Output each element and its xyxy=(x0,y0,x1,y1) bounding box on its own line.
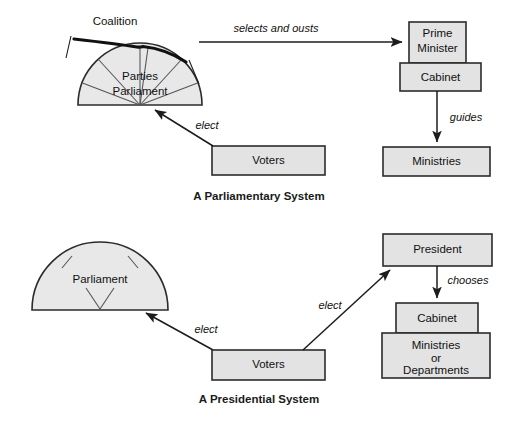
government-systems-diagram: Coalition Parties Parliament selects and… xyxy=(0,0,521,424)
box-label-cabinet-parliamentary: Cabinet xyxy=(421,71,461,83)
edge-label-selects-and-ousts: selects and ousts xyxy=(234,22,319,34)
box-label-president: President xyxy=(413,243,462,255)
box-president: President xyxy=(383,234,492,266)
edge-elect-president: elect xyxy=(303,270,390,350)
parliament-label-line1: Parties xyxy=(122,70,158,82)
edge-label-elect-parliament: elect xyxy=(194,323,218,335)
edge-elect-parliament-presidential: elect xyxy=(146,313,219,350)
edge-selects-and-ousts: selects and ousts xyxy=(199,22,402,42)
box-cabinet-parliamentary: Cabinet xyxy=(400,63,481,91)
coalition-label: Coalition xyxy=(93,15,138,27)
parliament-label-presidential: Parliament xyxy=(73,273,129,285)
parliament-label-line2: Parliament xyxy=(113,85,169,97)
box-label-prime-minister-line1: Prime xyxy=(422,27,452,39)
edge-chooses: chooses xyxy=(437,266,489,298)
diagram-canvas: Coalition Parties Parliament selects and… xyxy=(0,0,521,424)
box-voters-presidential: Voters xyxy=(212,350,325,380)
edge-label-elect-parliamentary: elect xyxy=(195,119,219,131)
box-voters-parliamentary: Voters xyxy=(212,146,325,175)
edge-label-guides: guides xyxy=(450,111,483,123)
box-label-prime-minister-line2: Minister xyxy=(417,42,457,54)
box-label-cabinet-presidential: Cabinet xyxy=(417,312,457,324)
caption-parliamentary-system: A Parliamentary System xyxy=(193,190,324,202)
edge-label-elect-president: elect xyxy=(318,299,342,311)
box-label-ministries-line1: Ministries xyxy=(412,339,461,351)
box-ministries-departments: Ministries or Departments xyxy=(382,333,490,378)
edge-elect-parliamentary: elect xyxy=(155,110,220,146)
box-label-voters-parliamentary: Voters xyxy=(252,154,285,166)
box-ministries-parliamentary: Ministries xyxy=(383,147,490,176)
box-label-ministries-line2: or xyxy=(431,352,441,364)
box-cabinet-presidential: Cabinet xyxy=(396,303,478,333)
box-label-ministries-line3: Departments xyxy=(403,364,469,376)
edge-label-chooses: chooses xyxy=(448,274,489,286)
edge-guides: guides xyxy=(437,91,483,142)
box-label-voters-presidential: Voters xyxy=(252,358,285,370)
caption-presidential-system: A Presidential System xyxy=(199,393,319,405)
box-label-ministries-parliamentary: Ministries xyxy=(412,155,461,167)
box-prime-minister: Prime Minister xyxy=(409,22,466,63)
